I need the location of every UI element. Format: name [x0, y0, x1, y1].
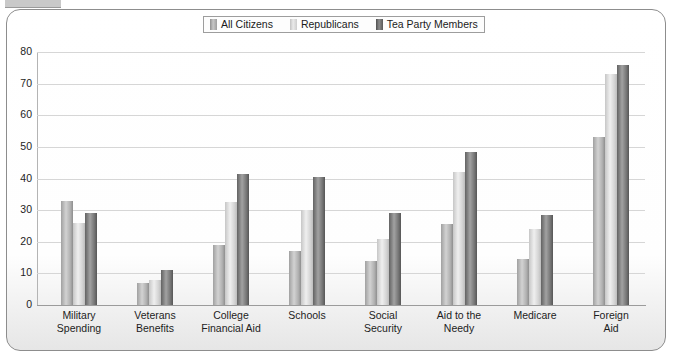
bar-group: [137, 52, 173, 305]
bar: [389, 213, 401, 305]
plot-area: [37, 52, 645, 305]
bar-group: [593, 52, 629, 305]
bar-group: [365, 52, 401, 305]
x-axis-category-label: ForeignAid: [573, 309, 649, 334]
x-axis-category-label: MilitarySpending: [41, 309, 117, 334]
legend-swatch-icon: [290, 19, 297, 30]
bar: [161, 270, 173, 305]
legend-item-republicans: Republicans: [290, 19, 359, 30]
bar: [617, 65, 629, 305]
top-tab-fragment: [5, 0, 61, 8]
bar: [605, 74, 617, 305]
bar: [301, 210, 313, 305]
bar: [225, 202, 237, 305]
bar: [85, 213, 97, 305]
legend-label: Tea Party Members: [387, 19, 478, 30]
bar-group: [289, 52, 325, 305]
legend-item-all-citizens: All Citizens: [210, 19, 273, 30]
bar: [529, 229, 541, 305]
bar: [73, 223, 85, 305]
bar-group: [441, 52, 477, 305]
legend-item-tea-party-members: Tea Party Members: [376, 19, 478, 30]
bar: [213, 245, 225, 305]
gridline: [37, 242, 645, 243]
bar: [465, 152, 477, 305]
bar-group: [61, 52, 97, 305]
bar-group: [213, 52, 249, 305]
chart-legend: All Citizens Republicans Tea Party Membe…: [203, 16, 485, 33]
gridline: [37, 115, 645, 116]
bar: [517, 259, 529, 305]
gridline: [37, 84, 645, 85]
bar: [149, 280, 161, 305]
gridline: [37, 210, 645, 211]
gridline: [37, 179, 645, 180]
x-axis-category-label: VeteransBenefits: [117, 309, 193, 334]
bar: [137, 283, 149, 305]
x-axis-category-label: SocialSecurity: [345, 309, 421, 334]
gridline: [37, 147, 645, 148]
bar: [61, 201, 73, 305]
gridline: [37, 273, 645, 274]
x-axis-category-label: Medicare: [497, 309, 573, 322]
x-axis-category-label: Schools: [269, 309, 345, 322]
legend-label: All Citizens: [221, 19, 273, 30]
bar: [441, 224, 453, 305]
bar: [541, 215, 553, 305]
bar: [453, 172, 465, 305]
bar: [377, 239, 389, 305]
x-axis-category-label: CollegeFinancial Aid: [193, 309, 269, 334]
bar: [593, 137, 605, 305]
bar-group: [517, 52, 553, 305]
bar: [313, 177, 325, 305]
gridline: [37, 52, 645, 53]
legend-swatch-icon: [376, 19, 383, 30]
bar: [289, 251, 301, 305]
bar: [237, 174, 249, 305]
bar: [365, 261, 377, 305]
legend-label: Republicans: [301, 19, 359, 30]
legend-swatch-icon: [210, 19, 217, 30]
x-axis-category-label: Aid to theNeedy: [421, 309, 497, 334]
x-axis-line: [37, 305, 646, 306]
